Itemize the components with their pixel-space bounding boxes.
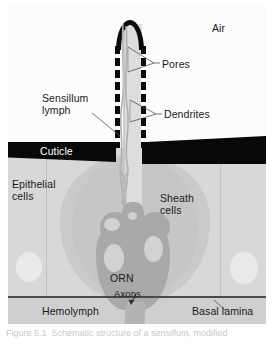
label-sensillum-lymph-line1: Sensillum <box>42 92 88 104</box>
label-sensillum-lymph-line2: lymph <box>42 104 71 116</box>
shaft-wall-left <box>115 46 120 148</box>
orn-vacuole <box>128 212 137 220</box>
pore-gap <box>141 114 146 118</box>
label-epithelial-line2: cells <box>12 190 34 202</box>
pore-gap <box>115 66 120 70</box>
pore-gap <box>115 54 120 58</box>
epithelial-cell-boundary <box>46 152 47 296</box>
pore-gap <box>141 90 146 94</box>
label-sheath-line2: cells <box>160 204 182 216</box>
axon-bundle <box>124 302 146 324</box>
label-sheath-line1: Sheath <box>160 192 194 204</box>
label-axons: Axons <box>114 288 141 300</box>
sensillum-lymph-channel <box>124 24 142 214</box>
figure-caption: Figure 5.1 Schematic structure of a sens… <box>6 328 268 339</box>
pore-gap <box>115 90 120 94</box>
epithelial-nucleus <box>16 252 42 282</box>
orn-vacuole <box>104 218 120 231</box>
sensillum-figure: Air Pores Sensillum lymph Dendrites Cuti… <box>0 0 274 345</box>
pore-gap <box>141 66 146 70</box>
pore-gap <box>141 138 146 142</box>
epithelial-cell-boundary <box>220 152 221 296</box>
shaft-wall-right <box>141 46 146 148</box>
epithelial-nucleus <box>230 252 258 284</box>
pore-gap <box>115 138 120 142</box>
diagram-panel <box>8 6 266 324</box>
orn-vacuole <box>144 236 163 262</box>
pore-gap <box>115 102 120 106</box>
pore-gap <box>141 54 146 58</box>
pore-gap <box>115 78 120 82</box>
label-hemolymph: Hemolymph <box>42 305 99 317</box>
pore-gap <box>141 126 146 130</box>
pore-gap <box>115 126 120 130</box>
pore-gap <box>141 102 146 106</box>
label-pores: Pores <box>162 58 190 70</box>
pore-gap <box>115 114 120 118</box>
label-air: Air <box>212 22 225 34</box>
label-orn: ORN <box>110 272 134 284</box>
label-dendrites: Dendrites <box>164 108 210 120</box>
orn-vacuole <box>104 244 124 272</box>
label-epithelial-line1: Epithelial <box>12 178 56 190</box>
label-cuticle: Cuticle <box>40 145 73 157</box>
pore-gap <box>141 78 146 82</box>
label-basal-lamina: Basal lamina <box>192 305 253 317</box>
